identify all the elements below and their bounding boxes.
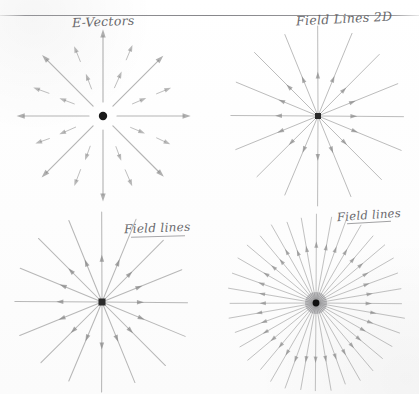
arrowhead-icon — [117, 154, 122, 161]
e-vector-short-shaft — [114, 77, 119, 88]
e-vector-short-shaft — [76, 51, 80, 61]
arrowhead-icon — [263, 329, 269, 334]
arrowhead-icon — [59, 315, 66, 320]
arrowhead-icon — [366, 301, 372, 305]
center-charge-dot — [315, 113, 321, 119]
center-charge-dot — [99, 299, 106, 306]
center-charge-dot — [313, 300, 320, 307]
arrowhead-icon — [329, 146, 334, 153]
arrowhead-icon — [74, 179, 79, 186]
arrowhead-icon — [259, 292, 266, 296]
arrowhead-icon — [60, 285, 67, 290]
e-vector-shaft — [47, 60, 93, 106]
arrowhead-icon — [316, 72, 320, 79]
arrowhead-icon — [286, 349, 291, 355]
e-vector-short-shaft — [64, 127, 75, 132]
arrowhead-icon — [277, 128, 284, 133]
arrowhead-icon — [100, 255, 105, 262]
e-vector-short-shaft — [132, 100, 141, 104]
e-vector-short-shaft — [157, 138, 166, 142]
arrowhead-icon — [366, 293, 372, 297]
arrowhead-icon — [56, 299, 63, 304]
field-line — [318, 84, 398, 116]
arrowhead-icon — [261, 319, 268, 323]
arrowhead-icon — [367, 320, 374, 324]
arrowhead-icon — [74, 46, 79, 53]
arrowhead-icon — [294, 356, 298, 363]
field-line — [316, 303, 402, 304]
e-vector-short-shaft — [87, 146, 90, 155]
diagram-field-lines-2d — [210, 0, 419, 215]
field-line — [315, 303, 316, 391]
arrowhead-icon — [297, 250, 301, 257]
e-vector-short-shaft — [88, 79, 92, 89]
diagram-field-lines-bottom-left — [0, 215, 210, 394]
arrowhead-icon — [138, 129, 145, 134]
arrowhead-icon — [349, 101, 356, 106]
arrowhead-icon — [333, 246, 337, 253]
arrowhead-icon — [85, 260, 90, 267]
arrowhead-icon — [85, 334, 90, 341]
arrowhead-icon — [86, 74, 91, 81]
e-vector-short-shaft — [76, 170, 80, 181]
arrowhead-icon — [128, 45, 133, 52]
arrowhead-icon — [351, 128, 358, 133]
arrowhead-icon — [305, 246, 309, 253]
arrowhead-icon — [359, 327, 365, 332]
e-vector-short-shaft — [64, 100, 74, 104]
arrowhead-icon — [316, 154, 320, 161]
arrowhead-icon — [285, 249, 290, 255]
e-vector-short-shaft — [38, 89, 49, 93]
arrowhead-icon — [127, 179, 132, 186]
e-vector-shaft — [46, 126, 93, 173]
arrowhead-icon — [258, 282, 265, 286]
arrowhead-icon — [100, 29, 105, 37]
e-vector-shaft — [113, 60, 159, 106]
e-vector-short-shaft — [116, 147, 119, 156]
scanned-page: E-Vectors Field Lines 2D Field lines Fie… — [0, 0, 419, 394]
field-line — [102, 302, 165, 366]
arrowhead-icon — [59, 98, 66, 103]
e-vector-short-shaft — [125, 170, 130, 181]
arrowhead-icon — [33, 88, 40, 92]
arrowhead-icon — [350, 114, 357, 118]
arrowhead-icon — [139, 98, 146, 103]
arrowhead-icon — [183, 113, 191, 118]
arrowhead-icon — [100, 193, 105, 201]
arrowhead-icon — [35, 139, 42, 143]
field-line — [102, 240, 163, 302]
field-line — [236, 82, 318, 116]
arrowhead-icon — [323, 355, 327, 362]
arrowhead-icon — [362, 272, 368, 277]
arrowhead-icon — [135, 286, 142, 291]
field-line — [285, 35, 318, 116]
arrowhead-icon — [314, 357, 318, 363]
arrowhead-icon — [100, 343, 105, 350]
arrowhead-icon — [137, 300, 144, 305]
arrowhead-icon — [341, 349, 346, 355]
arrowhead-icon — [333, 353, 337, 360]
field-line — [257, 116, 318, 177]
arrowhead-icon — [164, 88, 171, 93]
arrowhead-icon — [115, 259, 120, 266]
field-line — [318, 116, 404, 117]
e-vector-shaft — [113, 126, 159, 172]
field-line — [318, 116, 381, 180]
arrowhead-icon — [163, 139, 170, 144]
arrowhead-icon — [137, 315, 144, 320]
arrowhead-icon — [260, 301, 266, 305]
e-vector-short-shaft — [40, 139, 49, 142]
arrowhead-icon — [342, 249, 347, 255]
e-vector-short-shaft — [126, 50, 130, 60]
arrowhead-icon — [314, 242, 318, 248]
arrowhead-icon — [275, 114, 282, 118]
arrowhead-icon — [302, 76, 307, 83]
arrowhead-icon — [113, 334, 118, 341]
arrowhead-icon — [303, 146, 308, 153]
field-line — [254, 52, 318, 116]
e-vector-short-shaft — [157, 90, 167, 94]
diagram-field-lines-bottom-right — [210, 215, 419, 394]
arrowhead-icon — [370, 310, 377, 314]
arrowhead-icon — [117, 72, 122, 79]
field-line — [318, 54, 379, 116]
